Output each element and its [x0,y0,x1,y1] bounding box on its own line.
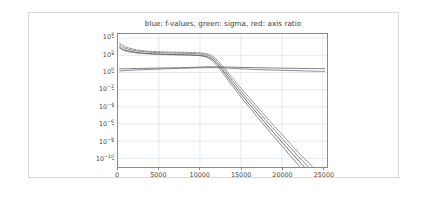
y-tick-mark [112,89,114,90]
y-tick-mark [112,72,114,73]
chart-root: blue: f-values, green: sigma, red: axis … [0,0,429,200]
x-tick-mark [199,168,200,170]
x-tick-mark [282,168,283,170]
data-curves [118,34,327,167]
x-tick-mark [158,168,159,170]
x-tick-label: 10000 [190,171,210,179]
x-tick-mark [241,168,242,170]
series-line [120,45,325,167]
x-tick-mark [117,168,118,170]
x-tick-label: 25000 [314,171,334,179]
y-axis-tick-labels: 10410210010−210−410−610−810−10 [88,33,114,168]
y-tick-mark [112,141,114,142]
series-line [120,48,325,167]
x-tick-mark [323,168,324,170]
series-line [120,43,325,167]
y-tick-mark [112,106,114,107]
x-tick-label: 5000 [150,171,166,179]
x-tick-label: 20000 [272,171,292,179]
x-axis-tick-labels: 0500010000150002000025000 [117,171,328,183]
y-tick-mark [112,37,114,38]
x-tick-label: 0 [115,171,119,179]
y-tick-mark [112,159,114,160]
y-tick-mark [112,124,114,125]
x-tick-label: 15000 [231,171,251,179]
y-tick-mark [112,54,114,55]
plot-area [117,33,328,168]
chart-title: blue: f-values, green: sigma, red: axis … [117,19,329,28]
